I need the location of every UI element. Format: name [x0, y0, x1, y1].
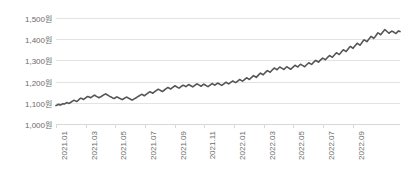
x-axis-tick-label: 2021.01	[60, 131, 69, 160]
x-axis-tick-label: 2022.05	[297, 131, 306, 160]
x-axis-tick	[175, 124, 176, 128]
y-axis-tick-label: 1,300원	[25, 55, 52, 66]
x-axis-tick-label: 2021.09	[179, 131, 188, 160]
y-axis-tick-label: 1,400원	[25, 34, 52, 45]
x-axis-tick-label: 2021.11	[208, 131, 217, 159]
x-axis-tick	[204, 124, 205, 128]
plot-area	[56, 18, 400, 124]
y-axis-labels: 1,500원1,400원1,300원1,200원1,100원1,000원	[0, 18, 52, 124]
x-axis-tick	[323, 124, 324, 128]
x-axis-tick	[353, 124, 354, 128]
x-axis-tick-label: 2022.07	[327, 131, 336, 160]
x-axis-tick	[115, 124, 116, 128]
x-axis-tick	[56, 124, 57, 128]
x-axis-line	[56, 124, 400, 125]
line-chart: 1,500원1,400원1,300원1,200원1,100원1,000원 202…	[0, 0, 420, 182]
x-axis-tick	[293, 124, 294, 128]
x-axis-tick-label: 2021.07	[149, 131, 158, 160]
y-axis-tick-label: 1,000원	[25, 119, 52, 130]
x-axis-tick	[234, 124, 235, 128]
x-axis-tick	[145, 124, 146, 128]
x-axis-tick-label: 2022.03	[268, 131, 277, 160]
x-axis-tick-label: 2021.05	[119, 131, 128, 160]
y-axis-tick-label: 1,500원	[25, 13, 52, 24]
x-axis-tick	[264, 124, 265, 128]
y-axis-tick-label: 1,100원	[25, 97, 52, 108]
x-axis-tick-label: 2022.01	[238, 131, 247, 160]
series-line-usdkrw	[56, 18, 400, 124]
x-axis-tick-label: 2021.03	[90, 131, 99, 160]
x-axis-tick	[86, 124, 87, 128]
x-axis-tick-label: 2022.09	[357, 131, 366, 160]
y-axis-tick-label: 1,200원	[25, 76, 52, 87]
